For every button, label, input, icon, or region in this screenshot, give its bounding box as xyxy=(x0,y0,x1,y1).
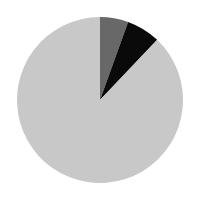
pie-chart xyxy=(0,0,197,198)
pie-slices xyxy=(17,17,183,183)
pie-slice-2 xyxy=(17,17,183,183)
